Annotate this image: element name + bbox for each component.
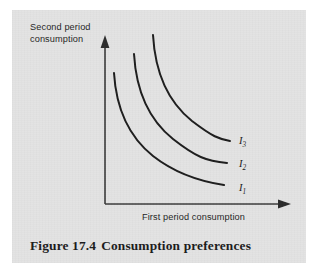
y-axis-label: Second period consumption (30, 22, 91, 45)
curve-label-i2: I2 (239, 159, 246, 174)
figure-page: Second period consumption First period c… (0, 0, 319, 263)
figure-caption: Figure 17.4Consumption preferences (30, 238, 251, 254)
curve-label-i3-subscript: 3 (243, 141, 247, 149)
figure-panel: Second period consumption First period c… (12, 10, 306, 263)
x-axis-arrow-icon (278, 200, 291, 209)
curve-label-i1: I1 (239, 183, 246, 198)
indifference-curve-1 (114, 73, 224, 185)
curve-label-i1-subscript: 1 (243, 188, 247, 196)
figure-caption-number: Figure 17.4 (30, 238, 96, 253)
indifference-curve-2 (134, 54, 227, 163)
y-axis-arrow-icon (101, 35, 110, 48)
x-axis-label: First period consumption (142, 212, 245, 224)
indifference-curve-plot (12, 10, 306, 263)
indifference-curve-3 (153, 35, 230, 141)
figure-caption-title: Consumption preferences (101, 238, 251, 253)
curve-label-i2-subscript: 2 (243, 164, 247, 172)
curve-label-i3: I3 (239, 136, 246, 151)
